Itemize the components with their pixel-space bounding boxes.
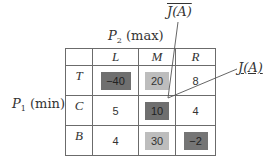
upper-value-pointer xyxy=(168,22,178,98)
lower-value-pointer xyxy=(168,69,237,98)
pointer-lines xyxy=(0,0,277,156)
